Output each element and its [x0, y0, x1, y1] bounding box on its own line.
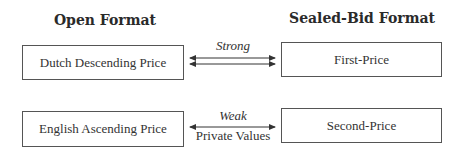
equivalence-arrows — [0, 0, 460, 161]
